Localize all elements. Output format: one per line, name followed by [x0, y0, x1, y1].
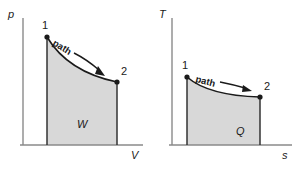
- path-direction-arrow: [220, 82, 245, 88]
- heat-area-label: Q: [236, 126, 245, 137]
- state2-point-marker: [114, 79, 119, 84]
- heat-area-shading: [187, 77, 260, 145]
- pressure-axis-label: p: [8, 9, 14, 20]
- state1-label: 1: [42, 20, 48, 31]
- temperature-entropy-diagram: T s 1 2 path Q: [150, 0, 300, 180]
- state1-point-marker: [44, 34, 49, 39]
- state2-point-marker: [257, 94, 262, 99]
- state2-label: 2: [121, 66, 127, 77]
- path-arrowhead: [242, 85, 252, 92]
- ts-diagram-graphics: [150, 0, 300, 180]
- state1-point-marker: [184, 74, 189, 79]
- thermodynamics-figure: p V 1 2 path W T: [0, 0, 300, 180]
- pv-diagram-graphics: [0, 0, 150, 180]
- work-area-label: W: [77, 119, 87, 130]
- state2-label: 2: [264, 81, 270, 92]
- state1-label: 1: [182, 60, 188, 71]
- temperature-axis-label: T: [159, 9, 166, 20]
- entropy-axis-label: s: [282, 150, 288, 161]
- pressure-volume-diagram: p V 1 2 path W: [0, 0, 150, 180]
- volume-axis-label: V: [131, 150, 138, 161]
